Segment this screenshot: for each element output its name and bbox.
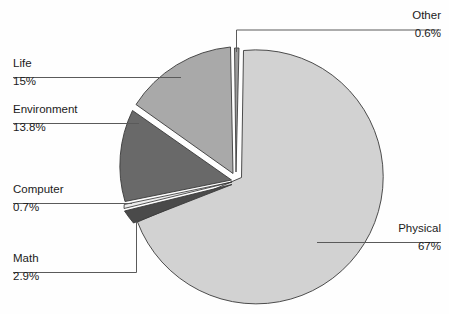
callout-life-value: 15% xyxy=(13,75,133,88)
callout-physical-value: 67% xyxy=(341,240,441,253)
callout-physical: Physical 67% xyxy=(341,222,441,253)
callout-physical-name: Physical xyxy=(341,222,441,235)
callout-other-value: 0.6% xyxy=(341,27,441,40)
callout-life: Life 15% xyxy=(13,57,133,88)
callout-math-value: 2.9% xyxy=(13,270,133,283)
callout-life-name: Life xyxy=(13,57,133,70)
callout-computer-value: 0.7% xyxy=(13,201,133,214)
callout-math-name: Math xyxy=(13,252,133,265)
callout-environment-value: 13.8% xyxy=(13,121,143,134)
callout-other-name: Other xyxy=(341,9,441,22)
callout-environment-name: Environment xyxy=(13,103,143,116)
callout-computer-name: Computer xyxy=(13,183,133,196)
pie-chart-figure: Other 0.6% Life 15% Environment 13.8% Co… xyxy=(0,0,449,314)
callout-computer: Computer 0.7% xyxy=(13,183,133,214)
callout-math: Math 2.9% xyxy=(13,252,133,283)
callout-other: Other 0.6% xyxy=(341,9,441,40)
callout-environment: Environment 13.8% xyxy=(13,103,143,134)
